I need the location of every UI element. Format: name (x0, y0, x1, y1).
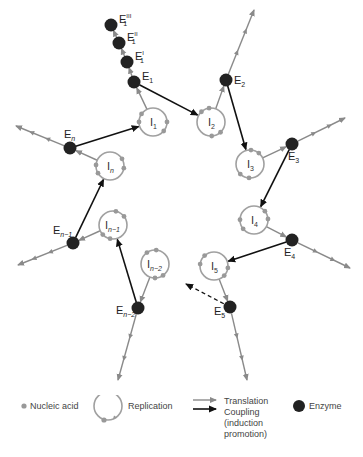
enzyme-label-E1: E1 (142, 70, 153, 84)
nucleic-acid-dot (94, 163, 99, 168)
label-subscript: 1 (149, 77, 153, 84)
legend-nucleic-acid: Nucleic acid (30, 401, 79, 412)
nucleic-acid-dot (161, 129, 166, 134)
label-subscript: 2 (241, 81, 245, 88)
label-subscript: n−1 (60, 231, 72, 238)
nucleic-acid-dot (122, 214, 127, 219)
label-subscript: 2 (211, 123, 215, 130)
translation-arrow-E1-E1' (129, 68, 132, 77)
label-base: E (214, 305, 221, 317)
translation-arrow-E1'-E1'' (121, 49, 124, 57)
nucleic-acid-dot (165, 120, 170, 125)
replication-ring-icon (94, 395, 122, 423)
enzyme-E1' (121, 56, 134, 69)
translation-arrow-In-2-En-2 (140, 277, 150, 302)
enzyme-label-En-1: En−1 (53, 224, 72, 238)
label-base: E (234, 74, 241, 86)
coupling-arrow-En-I1 (76, 126, 139, 146)
label-subscript: 3 (250, 165, 254, 172)
nucleic-acid-dot (139, 112, 144, 117)
ring-circle (141, 250, 169, 278)
replication-ring-In-1 (99, 209, 127, 241)
nucleic-acid-dot (199, 109, 204, 114)
coupling-arrow-dashed-E5 (186, 284, 224, 304)
nucleic-acid-dot (202, 253, 207, 258)
label-base: E (284, 246, 291, 258)
label-subscript: 5 (214, 267, 218, 274)
translation-arrow-I1-E1 (137, 88, 147, 109)
label-subscript: 5 (221, 312, 225, 319)
nucleic-acid-dot (209, 134, 214, 139)
translation-tail-E4 (298, 243, 350, 268)
label-subscript: n−2 (150, 265, 162, 272)
coupling-arrow-E3-I4 (261, 149, 290, 206)
label-subscript: 4 (254, 221, 258, 228)
legend-coupling-line2: (induction (224, 418, 267, 429)
translation-arrow-I2-E2 (216, 86, 224, 109)
coupling-arrow-E4-I5 (228, 242, 286, 261)
legend-replication: Replication (128, 401, 173, 412)
nucleic-acid-dot (114, 209, 119, 214)
nucleic-acid-dot (108, 236, 113, 241)
enzyme-E4 (286, 234, 299, 247)
nucleic-acid-dot (198, 262, 203, 267)
nucleic-acid-dot (120, 156, 125, 161)
nucleic-acid-dot (207, 106, 212, 111)
legend-coupling-line1: Coupling (224, 407, 267, 418)
nucleic-acid-dot (225, 266, 230, 271)
label-subscript: 1 (140, 57, 144, 64)
enzyme-label-E1'': EII1 (127, 31, 138, 45)
enzyme-E3 (286, 138, 299, 151)
translation-tail-E2 (228, 10, 254, 74)
nucleic-acid-dot (266, 217, 271, 222)
nucleic-acid-dot (222, 273, 227, 278)
label-subscript: 1 (132, 38, 136, 45)
nucleic-acid-dot (249, 148, 254, 153)
label-subscript: 1 (123, 20, 127, 27)
label-superscript: III (126, 13, 131, 19)
nucleic-acid-dot (262, 209, 267, 214)
translation-tail-En (16, 126, 64, 146)
label-subscript: 1 (153, 123, 157, 130)
legend-enzyme: Enzyme (309, 401, 342, 412)
translation-tail-E3 (298, 118, 345, 141)
coupling-arrow-E2-I3 (228, 86, 246, 150)
translation-arrow-I3-E3 (263, 147, 286, 158)
label-base: E (53, 224, 60, 236)
hypercycle-diagram: I1I2I3I4I5In−2In−1InE1EI1EII1EIII1E2E3E4… (0, 0, 363, 457)
legend-coupling-line3: promotion) (224, 429, 267, 440)
nucleic-acid-dot (154, 248, 159, 253)
translation-arrow-I5-E5 (219, 279, 228, 301)
translation-arrow-I4-E4 (266, 227, 286, 237)
legend-coupling: Coupling (induction promotion) (224, 407, 267, 440)
enzyme-E1'' (113, 37, 126, 50)
translation-tail-En-1 (18, 245, 67, 265)
nucleic-acid-dot (121, 166, 126, 171)
nucleic-acid-dot-icon (21, 403, 26, 408)
legend-translation: Translation (224, 396, 268, 407)
nucleic-acid-dot (247, 176, 252, 181)
enzyme-dot-icon (293, 400, 305, 412)
label-base: E (142, 70, 149, 82)
coupling-arrow-En-2-In-1 (117, 239, 136, 302)
label-subscript: n−1 (108, 226, 120, 233)
nucleic-acid-dot (218, 130, 223, 135)
nucleic-acid-dot (145, 250, 150, 255)
enzyme-E2 (220, 74, 233, 87)
enzyme-En-1 (67, 237, 80, 250)
enzyme-label-E2: E2 (234, 74, 245, 88)
nucleic-acid-dot (161, 273, 166, 278)
nucleic-acid-dot (153, 276, 158, 281)
translation-tail-En-2 (118, 314, 136, 380)
label-base: E (288, 150, 295, 162)
enzyme-E1 (128, 76, 141, 89)
enzyme-label-E3: E3 (288, 150, 299, 164)
nucleic-acid-dot (256, 151, 261, 156)
nucleic-acid-dot (96, 171, 101, 176)
label-subscript: n (110, 167, 114, 174)
nucleic-acid-dot (241, 226, 246, 231)
label-subscript: 4 (291, 253, 295, 260)
enzyme-label-En: En (64, 128, 75, 142)
label-subscript: 3 (295, 157, 299, 164)
label-superscript: II (134, 31, 138, 37)
